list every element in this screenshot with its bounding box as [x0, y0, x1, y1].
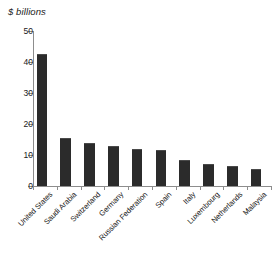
bar	[179, 160, 190, 186]
x-tick-mark	[33, 186, 34, 190]
bar	[227, 166, 238, 186]
x-tick-mark	[104, 186, 105, 190]
x-tick-mark	[57, 186, 58, 190]
plot-area: 01020304050 United StatesSaudi ArabiaSwi…	[0, 0, 275, 262]
x-tick-mark	[176, 186, 177, 190]
bar	[251, 169, 262, 186]
x-tick-mark	[200, 186, 201, 190]
y-tick-label: 30	[9, 88, 33, 98]
y-tick-label: 0	[9, 181, 33, 191]
y-tick-label: 10	[9, 150, 33, 160]
x-tick-label: Malaysia	[241, 190, 268, 217]
bar	[156, 150, 167, 186]
y-tick-label: 40	[9, 57, 33, 67]
x-tick-label: Spain	[153, 190, 173, 210]
bar	[60, 138, 71, 186]
bar	[132, 149, 143, 186]
bar	[108, 146, 119, 186]
x-tick-label: Italy	[181, 190, 197, 206]
x-tick-mark	[128, 186, 129, 190]
x-tick-mark	[81, 186, 82, 190]
bar	[84, 143, 95, 186]
x-tick-mark	[152, 186, 153, 190]
bar	[37, 54, 48, 186]
y-axis-line	[33, 31, 34, 186]
x-tick-mark	[247, 186, 248, 190]
y-tick-label: 20	[9, 119, 33, 129]
x-tick-mark	[223, 186, 224, 190]
y-tick-label: 50	[9, 26, 33, 36]
bar-chart: $ billions 01020304050 United StatesSaud…	[0, 0, 275, 262]
bar	[203, 164, 214, 186]
x-tick-mark	[271, 186, 272, 190]
